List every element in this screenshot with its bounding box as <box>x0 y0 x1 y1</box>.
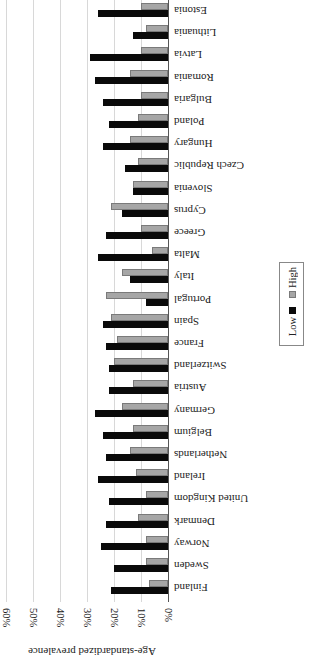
bar-low <box>103 99 168 106</box>
bar-high <box>141 3 168 10</box>
bar-high <box>146 536 168 543</box>
gridline <box>60 0 61 602</box>
bar-low <box>125 165 168 172</box>
bar-low <box>122 210 168 217</box>
bar-high <box>141 47 168 54</box>
bar-high <box>111 314 168 321</box>
category-label: Finland <box>174 582 208 594</box>
category-label: Romania <box>174 72 214 84</box>
axis-title: Age-standardized prevalence <box>28 646 156 658</box>
bar-high <box>138 158 168 165</box>
bar-high <box>141 92 168 99</box>
zero-axis-line <box>168 0 169 602</box>
bar-low <box>90 54 168 61</box>
tick-label: 50% <box>28 608 39 627</box>
bar-low <box>106 343 168 350</box>
gridline <box>87 0 88 602</box>
bar-high <box>130 447 168 454</box>
bar-high <box>136 469 168 476</box>
bar-low <box>98 254 168 261</box>
bar-low <box>106 232 168 239</box>
gridline <box>6 0 7 602</box>
category-label: Denmark <box>174 516 215 528</box>
bar-low <box>109 498 168 505</box>
category-label: Greece <box>174 227 205 239</box>
bar-low <box>103 143 168 150</box>
bar-high <box>146 25 168 32</box>
bar-low <box>103 321 168 328</box>
bar-low <box>98 476 168 483</box>
gridline <box>114 0 115 602</box>
category-label: Lithuania <box>174 27 216 39</box>
bar-high <box>138 114 168 121</box>
legend-swatch-high <box>289 291 296 298</box>
category-label: Poland <box>174 116 205 128</box>
bar-low <box>130 276 168 283</box>
legend-label-low: Low <box>287 317 298 336</box>
bar-high <box>130 136 168 143</box>
gridline <box>33 0 34 602</box>
bar-low <box>101 543 169 550</box>
bar-high <box>133 380 168 387</box>
category-label: Netherlands <box>174 449 227 461</box>
category-label: Austria <box>174 382 206 394</box>
category-label: Malta <box>174 249 200 261</box>
bar-low <box>133 188 168 195</box>
category-label: Estonia <box>174 5 207 17</box>
bar-high <box>141 225 168 232</box>
category-label: Switzerland <box>174 360 227 372</box>
category-label: United Kingdom <box>174 493 248 505</box>
bar-high <box>130 70 168 77</box>
bar-low <box>109 387 168 394</box>
tick-label: 0% <box>163 608 174 622</box>
bar-high <box>152 247 168 254</box>
category-label: Portugal <box>174 294 211 306</box>
bar-low <box>146 299 168 306</box>
bar-high <box>106 292 168 299</box>
bar-low <box>133 32 168 39</box>
bar-low <box>114 565 168 572</box>
bar-high <box>146 491 168 498</box>
tick-label: 30% <box>82 608 93 627</box>
category-label: Spain <box>174 316 199 328</box>
bar-high <box>114 358 168 365</box>
bar-high <box>122 269 168 276</box>
legend-label-high: High <box>287 267 298 288</box>
category-label: Italy <box>174 271 194 283</box>
tick-label: 60% <box>1 608 12 627</box>
bar-high <box>149 580 168 587</box>
bar-high <box>117 336 168 343</box>
bar-low <box>103 432 168 439</box>
bar-low <box>111 587 168 594</box>
bar-high <box>146 558 168 565</box>
bar-high <box>111 203 168 210</box>
bar-high <box>122 403 168 410</box>
category-label: Norway <box>174 538 209 550</box>
bar-low <box>106 521 168 528</box>
category-label: Hungary <box>174 138 213 150</box>
bar-high <box>133 425 168 432</box>
category-label: Germany <box>174 405 215 417</box>
category-label: Ireland <box>174 471 205 483</box>
bar-high <box>138 514 168 521</box>
gridline <box>141 0 142 602</box>
bar-low <box>98 10 168 17</box>
legend: Low High <box>279 262 304 346</box>
category-label: Bulgaria <box>174 94 212 106</box>
bar-low <box>95 77 168 84</box>
bar-low <box>109 365 168 372</box>
category-label: Czech Republic <box>174 160 244 172</box>
category-label: Latvia <box>174 49 202 61</box>
legend-item-low: Low <box>284 307 300 336</box>
bar-high <box>133 181 168 188</box>
tick-label: 40% <box>55 608 66 627</box>
category-label: France <box>174 338 204 350</box>
tick-label: 10% <box>136 608 147 627</box>
legend-swatch-low <box>289 307 296 314</box>
category-label: Sweden <box>174 560 209 572</box>
category-label: Slovenia <box>174 183 213 195</box>
category-label: Cyprus <box>174 205 206 217</box>
bar-low <box>109 121 168 128</box>
tick-label: 20% <box>109 608 120 627</box>
bar-low <box>95 410 168 417</box>
